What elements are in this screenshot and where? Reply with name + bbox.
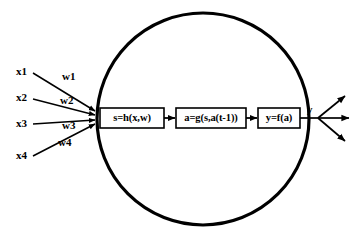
activation-function-label: a=g(s,a(t-1)) bbox=[184, 112, 238, 124]
neuron-diagram: x1 x2 x3 x4 w1 w2 w3 w4 s=h(x,w) a=g(s,a… bbox=[0, 0, 355, 238]
diagram-canvas: x1 x2 x3 x4 w1 w2 w3 w4 s=h(x,w) a=g(s,a… bbox=[0, 0, 355, 238]
weight-label-w3: w3 bbox=[62, 119, 76, 131]
weight-label-w4: w4 bbox=[58, 136, 72, 148]
input-label-x4: x4 bbox=[16, 149, 28, 161]
weight-label-w1: w1 bbox=[62, 70, 75, 82]
output-function-label: y=f(a) bbox=[266, 112, 293, 124]
input-label-x2: x2 bbox=[16, 91, 28, 103]
weight-label-w2: w2 bbox=[60, 94, 74, 106]
output-label-y: y bbox=[307, 103, 313, 115]
output-branch-down-arrow bbox=[318, 118, 345, 141]
output-branch-up-arrow bbox=[318, 96, 345, 118]
input-label-x1: x1 bbox=[16, 65, 27, 77]
input-label-x3: x3 bbox=[16, 117, 28, 129]
state-function-label: s=h(x,w) bbox=[113, 112, 151, 124]
